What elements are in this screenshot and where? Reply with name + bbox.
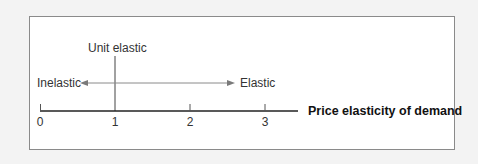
tick-label-1: 1 (112, 116, 119, 128)
tick-label-2: 2 (187, 116, 194, 128)
arrow-left-head-icon (80, 80, 88, 86)
tick-label-3: 3 (262, 116, 269, 128)
axis-title: Price elasticity of demand (308, 105, 462, 118)
unit-elastic-label: Unit elastic (88, 42, 147, 54)
arrow-right-head-icon (227, 80, 235, 86)
elastic-label: Elastic (240, 77, 275, 89)
tick-label-0: 0 (37, 116, 44, 128)
inelastic-label: Inelastic (37, 77, 81, 89)
